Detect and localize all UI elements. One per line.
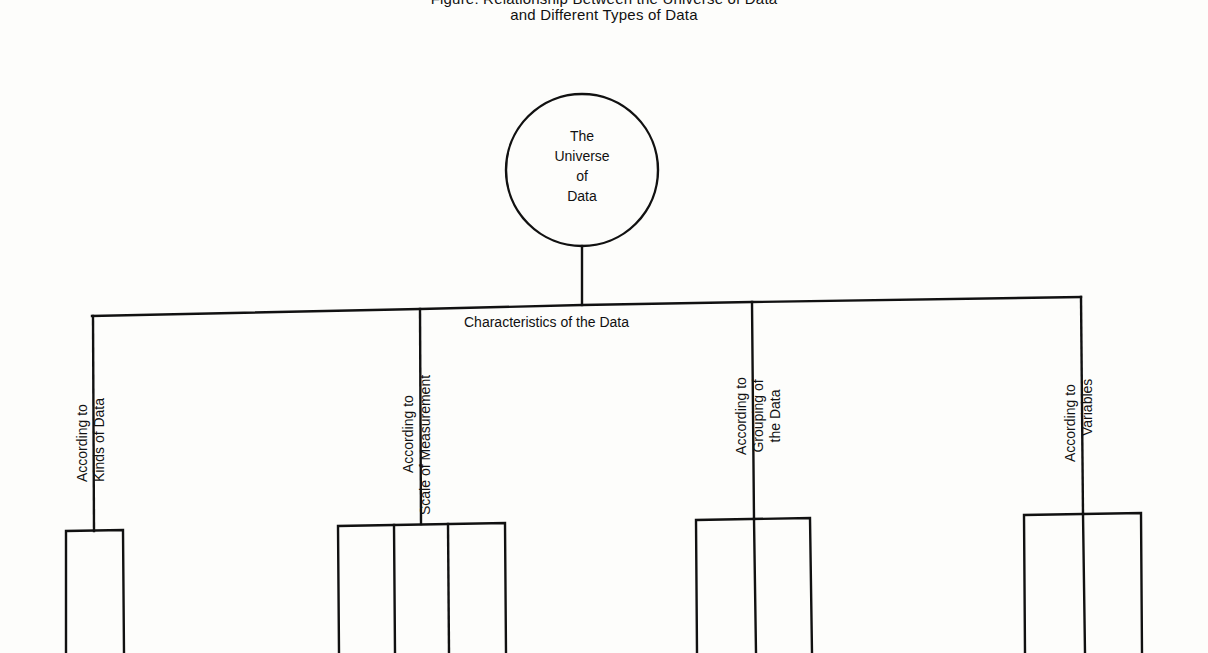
branch-2-box xyxy=(338,523,506,653)
branch-3-label-line-3: the Data xyxy=(767,360,784,472)
branch-1-label-line-2: Kinds of Data xyxy=(91,398,108,482)
branch-3-divider xyxy=(754,519,756,653)
branch-4-divider xyxy=(1083,514,1085,653)
root-label-line: The xyxy=(505,126,659,146)
branch-2-divider-2 xyxy=(448,524,449,653)
branch-3-label: According to Grouping of the Data xyxy=(733,360,784,472)
branch-2-divider-1 xyxy=(394,525,395,653)
branch-1-label-line-1: According to xyxy=(74,398,91,482)
branch-4-label-line-2: Variables xyxy=(1079,350,1096,462)
branch-4-label: According to Variables xyxy=(1062,350,1096,462)
branch-2-label-line-2: Scale of Measurement xyxy=(417,325,434,515)
root-label-line: of xyxy=(505,166,659,186)
root-label-line: Universe xyxy=(505,146,659,166)
branch-1-label: According to Kinds of Data xyxy=(74,398,108,482)
root-label-line: Data xyxy=(505,186,659,206)
characteristics-label: Characteristics of the Data xyxy=(464,314,629,330)
branch-4-label-line-1: According to xyxy=(1062,350,1079,462)
branch-1-box xyxy=(66,530,124,653)
branch-3-label-line-2: Grouping of xyxy=(750,360,767,472)
root-node-label: The Universe of Data xyxy=(505,126,659,206)
diagram-page: Figure: Relationship Between the Univers… xyxy=(0,0,1208,653)
branch-3-label-line-1: According to xyxy=(733,360,750,472)
branch-2-label-line-1: According to xyxy=(400,325,417,515)
branch-2-label: According to Scale of Measurement xyxy=(400,325,434,515)
